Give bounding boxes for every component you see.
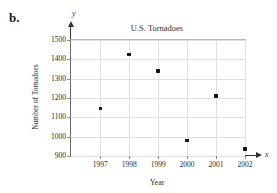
y-axis-arrow-icon: [68, 21, 74, 27]
data-point-2001: [214, 94, 218, 98]
y-axis-title: Number of Tornadoes: [31, 39, 41, 155]
x-gridline: [216, 40, 217, 156]
x-axis-title: Year: [70, 178, 244, 187]
data-point-1997: [99, 107, 103, 111]
x-gridline: [129, 40, 130, 156]
figure-label: b.: [9, 10, 19, 26]
y-tick-mark: [67, 40, 71, 41]
data-point-1999: [156, 69, 160, 73]
x-tick-mark: [216, 156, 217, 159]
y-tick-mark: [67, 79, 71, 80]
chart-title: U.S. Tornadoes: [70, 23, 244, 33]
x-axis-symbol: x: [265, 150, 269, 159]
x-gridline: [158, 40, 159, 156]
x-gridline: [100, 40, 101, 156]
x-tick-mark: [187, 156, 188, 159]
y-axis-symbol: y: [72, 9, 76, 18]
plot-area: 9001000110012001300140015001997199819992…: [70, 39, 246, 157]
x-tick-mark: [158, 156, 159, 159]
x-tick-mark: [100, 156, 101, 159]
x-tick-label: 1997: [85, 161, 115, 169]
y-tick-mark: [67, 59, 71, 60]
x-tick-mark: [129, 156, 130, 159]
x-tick-mark: [245, 156, 246, 159]
x-tick-label: 2000: [172, 161, 202, 169]
x-axis-arrow-icon: [256, 152, 262, 158]
x-tick-label: 2002: [230, 161, 260, 169]
y-tick-mark: [67, 137, 71, 138]
x-tick-label: 2001: [201, 161, 231, 169]
data-point-2002: [243, 147, 247, 151]
y-tick-mark: [67, 98, 71, 99]
y-tick-mark: [67, 156, 71, 157]
y-axis-arrow-line: [70, 26, 71, 39]
figure: b. U.S. Tornadoes y 90010001100120013001…: [0, 0, 277, 193]
x-tick-label: 1998: [114, 161, 144, 169]
x-tick-label: 1999: [143, 161, 173, 169]
data-point-2000: [185, 139, 189, 143]
data-point-1998: [127, 53, 131, 57]
x-gridline: [245, 40, 246, 156]
y-tick-mark: [67, 117, 71, 118]
